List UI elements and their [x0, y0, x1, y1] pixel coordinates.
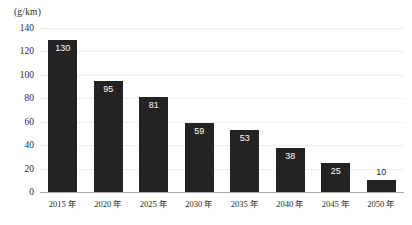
x-axis-ticks: 2015 年 2020 年 2025 年 2030 年 2035 年 2040 … [40, 196, 404, 212]
bar-slot: 53 [222, 28, 268, 192]
x-tick-label: 2025 年 [131, 196, 177, 212]
x-tick-label: 2050 年 [359, 196, 405, 212]
x-tick-label: 2020 年 [86, 196, 132, 212]
bar[interactable]: 10 [367, 180, 396, 192]
bar-value-label: 25 [321, 167, 350, 176]
bar-value-label: 38 [276, 152, 305, 161]
bar-slot: 38 [268, 28, 314, 192]
bar-slot: 25 [313, 28, 359, 192]
bar-value-label: 59 [185, 127, 214, 136]
y-tick-label: 120 [0, 46, 34, 56]
bar-value-label: 130 [48, 44, 77, 53]
bar[interactable]: 95 [94, 81, 123, 192]
plot-area: 130 95 81 59 53 [40, 28, 404, 192]
x-tick-label: 2045 年 [313, 196, 359, 212]
bar[interactable]: 53 [230, 130, 259, 192]
bar-value-label: 10 [367, 168, 396, 177]
bar-slot: 10 [359, 28, 405, 192]
bar-value-label: 53 [230, 134, 259, 143]
bar[interactable]: 130 [48, 40, 77, 192]
y-tick-label: 100 [0, 70, 34, 80]
bar-slot: 95 [86, 28, 132, 192]
y-tick-label: 60 [0, 117, 34, 127]
x-tick-label: 2030 年 [177, 196, 223, 212]
bar-chart: (g/km) 140 120 100 80 60 40 20 0 130 [0, 0, 412, 225]
y-axis-ticks: 140 120 100 80 60 40 20 0 [0, 28, 34, 192]
x-axis-line [40, 192, 404, 193]
x-tick-label: 2040 年 [268, 196, 314, 212]
bar[interactable]: 81 [139, 97, 168, 192]
bar-series: 130 95 81 59 53 [40, 28, 404, 192]
y-tick-label: 20 [0, 164, 34, 174]
bar-slot: 130 [40, 28, 86, 192]
y-tick-label: 140 [0, 23, 34, 33]
bar[interactable]: 38 [276, 148, 305, 193]
y-tick-label: 0 [0, 187, 34, 197]
bar-slot: 81 [131, 28, 177, 192]
x-tick-label: 2015 年 [40, 196, 86, 212]
bar[interactable]: 59 [185, 123, 214, 192]
y-tick-label: 40 [0, 140, 34, 150]
bar-value-label: 81 [139, 101, 168, 110]
bar[interactable]: 25 [321, 163, 350, 192]
bar-value-label: 95 [94, 85, 123, 94]
bar-slot: 59 [177, 28, 223, 192]
x-tick-label: 2035 年 [222, 196, 268, 212]
y-axis-unit-label: (g/km) [14, 7, 41, 17]
y-tick-label: 80 [0, 93, 34, 103]
